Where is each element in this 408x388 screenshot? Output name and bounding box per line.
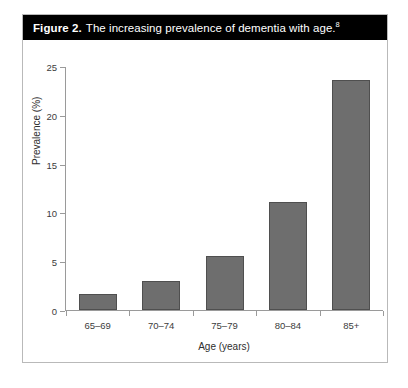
x-tick-label: 85+	[320, 320, 383, 331]
bar-slot	[320, 67, 383, 310]
plot-area: 0510152025 65–6970–7475–7980–8485+ Age (…	[65, 67, 383, 311]
y-tick-label: 5	[52, 257, 57, 268]
x-tick-label: 65–69	[66, 320, 129, 331]
bar-slot	[66, 67, 129, 310]
bar-slot	[256, 67, 319, 310]
bar-series	[66, 67, 383, 310]
figure-box: Figure 2. The increasing prevalence of d…	[22, 14, 388, 363]
bar-65–69	[79, 294, 117, 310]
figure-number: Figure 2.	[33, 22, 82, 34]
y-tick-label: 10	[46, 208, 57, 219]
y-tick-mark	[60, 67, 65, 68]
bar-75–79	[206, 256, 244, 310]
bar-80–84	[269, 202, 307, 310]
x-tick-label: 80–84	[256, 320, 319, 331]
x-axis-title: Age (years)	[65, 341, 383, 352]
x-axis-tick-labels: 65–6970–7475–7980–8485+	[66, 311, 383, 331]
bar-70–74	[142, 281, 180, 310]
y-tick-label: 25	[46, 62, 57, 73]
y-tick-mark	[60, 116, 65, 117]
x-tick-label: 75–79	[193, 320, 256, 331]
figure-caption-reference: 8	[336, 20, 340, 29]
y-tick-label: 15	[46, 159, 57, 170]
bar-slot	[129, 67, 192, 310]
y-tick-mark	[60, 165, 65, 166]
figure-caption-bar: Figure 2. The increasing prevalence of d…	[23, 15, 387, 40]
bar-slot	[193, 67, 256, 310]
y-tick-label: 20	[46, 110, 57, 121]
y-tick-label: 0	[52, 306, 57, 317]
y-tick-mark	[60, 213, 65, 214]
figure-caption-text: The increasing prevalence of dementia wi…	[86, 22, 336, 34]
x-tick-label: 70–74	[129, 320, 192, 331]
x-tick-mark	[383, 311, 384, 316]
y-tick-mark	[60, 262, 65, 263]
y-axis-title: Prevalence (%)	[31, 97, 42, 165]
bar-85+	[332, 80, 370, 310]
